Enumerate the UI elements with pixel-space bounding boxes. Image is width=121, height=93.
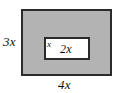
inner-rectangle-height-label: x [47, 40, 51, 49]
inner-rectangle-width-label: 2x [60, 43, 72, 55]
outer-rectangle-width-label: 4x [58, 78, 71, 91]
geometry-figure: 3x 4x x 2x [0, 0, 121, 93]
outer-rectangle-height-label: 3x [3, 35, 16, 48]
